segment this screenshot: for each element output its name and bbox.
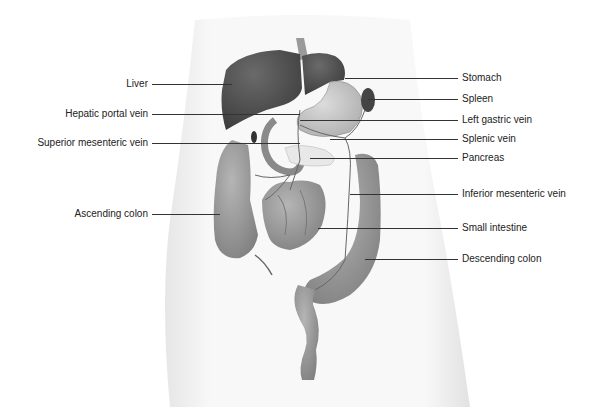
leader-line-small-intestine	[318, 228, 458, 229]
gallbladder	[251, 131, 257, 143]
label-liver: Liver	[126, 78, 148, 90]
label-spleen: Spleen	[462, 93, 493, 105]
leader-line-descending-colon	[365, 259, 458, 260]
label-descending-colon: Descending colon	[462, 253, 542, 265]
label-superior-mesenteric-vein: Superior mesenteric vein	[37, 137, 148, 149]
label-pancreas: Pancreas	[462, 152, 504, 164]
leader-line-pancreas	[310, 158, 458, 159]
label-splenic-vein: Splenic vein	[462, 133, 516, 145]
leader-line-inferior-mesenteric-vein	[350, 194, 458, 195]
anatomy-illustration	[0, 0, 600, 407]
leader-line-spleen	[368, 99, 458, 100]
label-hepatic-portal-vein: Hepatic portal vein	[65, 108, 148, 120]
label-ascending-colon: Ascending colon	[75, 208, 148, 220]
label-inferior-mesenteric-vein: Inferior mesenteric vein	[462, 188, 566, 200]
leader-line-splenic-vein	[330, 139, 458, 140]
label-left-gastric-vein: Left gastric vein	[462, 114, 532, 126]
leader-line-hepatic-portal-vein	[152, 114, 300, 115]
leader-line-liver	[152, 84, 232, 85]
label-small-intestine: Small intestine	[462, 222, 527, 234]
leader-line-stomach	[345, 78, 458, 79]
leader-line-left-gastric-vein	[300, 120, 458, 121]
leader-line-superior-mesenteric-vein	[152, 143, 300, 144]
spleen	[361, 88, 375, 112]
label-stomach: Stomach	[462, 72, 501, 84]
leader-line-ascending-colon	[152, 214, 220, 215]
